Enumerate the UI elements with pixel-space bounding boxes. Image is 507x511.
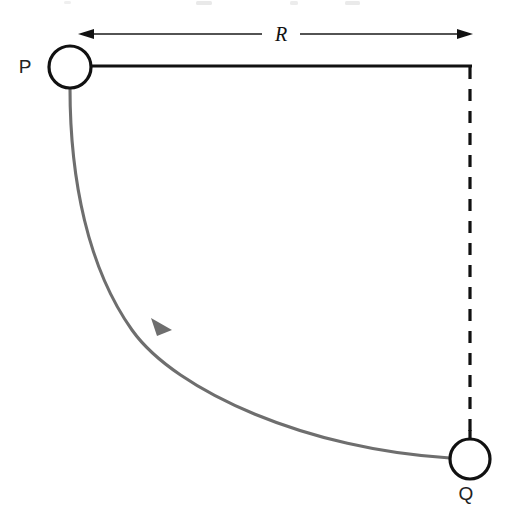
end-marker-q bbox=[450, 439, 490, 479]
diagram-canvas: R P Q bbox=[0, 0, 507, 511]
radius-dimension-label: R bbox=[274, 23, 287, 45]
figure-root: R P Q bbox=[0, 0, 507, 511]
pivot-label-p: P bbox=[19, 56, 32, 77]
end-label-q: Q bbox=[459, 483, 474, 504]
pivot-marker-p bbox=[49, 46, 91, 88]
